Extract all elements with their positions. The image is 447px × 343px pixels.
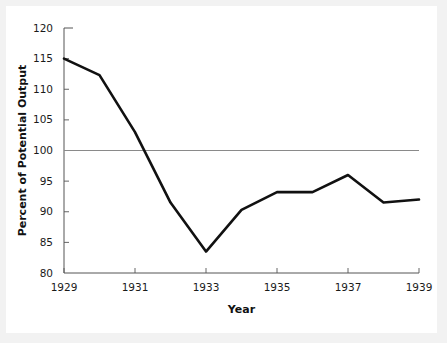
y-tick-label: 100 [33, 144, 53, 156]
y-tick-label: 85 [40, 236, 53, 248]
y-tick-label: 80 [40, 267, 53, 279]
y-tick-label: 95 [40, 175, 53, 187]
x-tick-label: 1933 [193, 281, 220, 293]
figure-page: 80859095100105110115120 1929193119331935… [0, 0, 447, 343]
x-tick-label: 1931 [122, 281, 149, 293]
line-chart-figure: 80859095100105110115120 1929193119331935… [6, 6, 437, 333]
x-tick-label: 1935 [264, 281, 291, 293]
y-tick-label: 115 [33, 52, 53, 64]
x-axis-title: Year [227, 303, 256, 316]
chart-canvas: 80859095100105110115120 1929193119331935… [6, 6, 437, 333]
output-series-line [64, 59, 419, 252]
y-tick-label: 110 [33, 83, 53, 95]
x-tick-label: 1937 [335, 281, 362, 293]
y-tick-label: 105 [33, 113, 53, 125]
x-tick-label: 1929 [51, 281, 78, 293]
x-axis-tickmarks [64, 268, 419, 273]
chart-card: 80859095100105110115120 1929193119331935… [6, 6, 437, 333]
y-axis-tick-labels: 80859095100105110115120 [33, 22, 53, 279]
y-tick-label: 120 [33, 22, 53, 34]
y-tick-label: 90 [40, 205, 53, 217]
x-tick-label: 1939 [406, 281, 433, 293]
y-axis-title: Percent of Potential Output [16, 65, 29, 237]
x-axis-tick-labels: 192919311933193519371939 [51, 281, 433, 293]
